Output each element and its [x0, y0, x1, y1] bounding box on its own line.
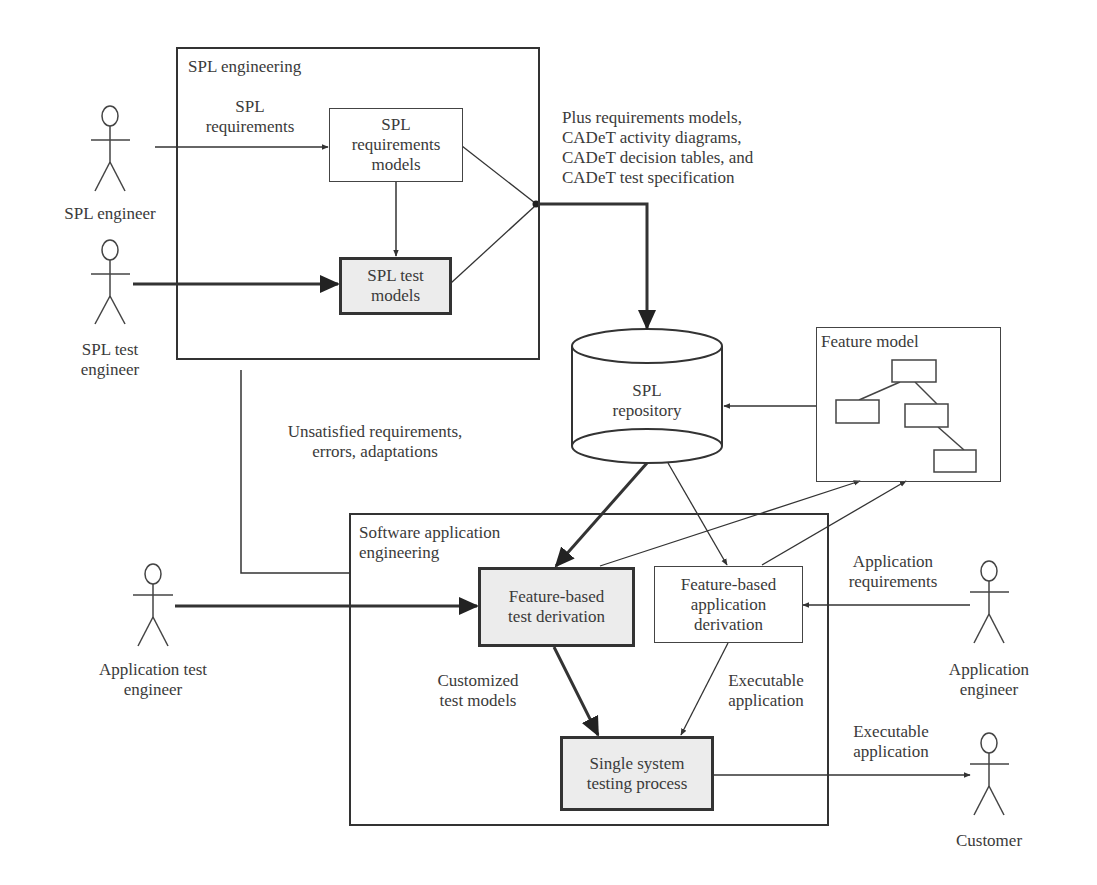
flow-label-executable-application-customer: Executable application [836, 722, 946, 762]
feature-model-frame: Feature model [816, 327, 1001, 482]
actor-spl-engineer-label: SPL engineer [40, 204, 180, 224]
single-system-testing-process-box: Single system testing process [560, 736, 714, 811]
flow-label-customized-test-models: Customized test models [418, 671, 538, 711]
single-system-testing-process-label: Single system testing process [563, 754, 711, 794]
spl-engineering-title: SPL engineering [188, 57, 301, 77]
flow-label-repository-inputs: Plus requirements models, CADeT activity… [562, 108, 753, 188]
actor-customer-icon [970, 733, 1009, 815]
flow-label-spl-requirements: SPL requirements [185, 97, 315, 137]
flow-label-executable-application-internal: Executable application [711, 671, 821, 711]
actor-application-test-engineer-label: Application test engineer [73, 660, 233, 700]
flow-label-feedback: Unsatisfied requirements, errors, adapta… [255, 422, 495, 462]
feature-based-application-derivation-label: Feature-based application derivation [655, 575, 802, 635]
spl-repository-label: SPL repository [597, 381, 697, 421]
spl-test-models-box: SPL test models [339, 257, 452, 315]
feature-model-title: Feature model [821, 332, 919, 352]
spl-requirements-models-label: SPL requirements models [330, 115, 462, 175]
spl-requirements-models-box: SPL requirements models [329, 108, 463, 182]
feature-based-application-derivation-box: Feature-based application derivation [654, 566, 803, 643]
actor-application-test-engineer-icon [133, 564, 173, 646]
feature-based-test-derivation-box: Feature-based test derivation [478, 567, 635, 647]
actor-application-engineer-label: Application engineer [929, 660, 1049, 700]
flow-label-application-requirements: Application requirements [829, 552, 957, 592]
actor-spl-test-engineer-label: SPL test engineer [50, 340, 170, 380]
feature-based-test-derivation-label: Feature-based test derivation [481, 587, 632, 627]
actor-spl-test-engineer-icon [91, 240, 130, 324]
actor-customer-label: Customer [939, 831, 1039, 851]
software-application-engineering-title: Software application engineering [359, 523, 500, 563]
actor-spl-engineer-icon [91, 106, 130, 191]
actor-application-engineer-icon [970, 561, 1009, 643]
spl-test-models-label: SPL test models [342, 266, 449, 306]
